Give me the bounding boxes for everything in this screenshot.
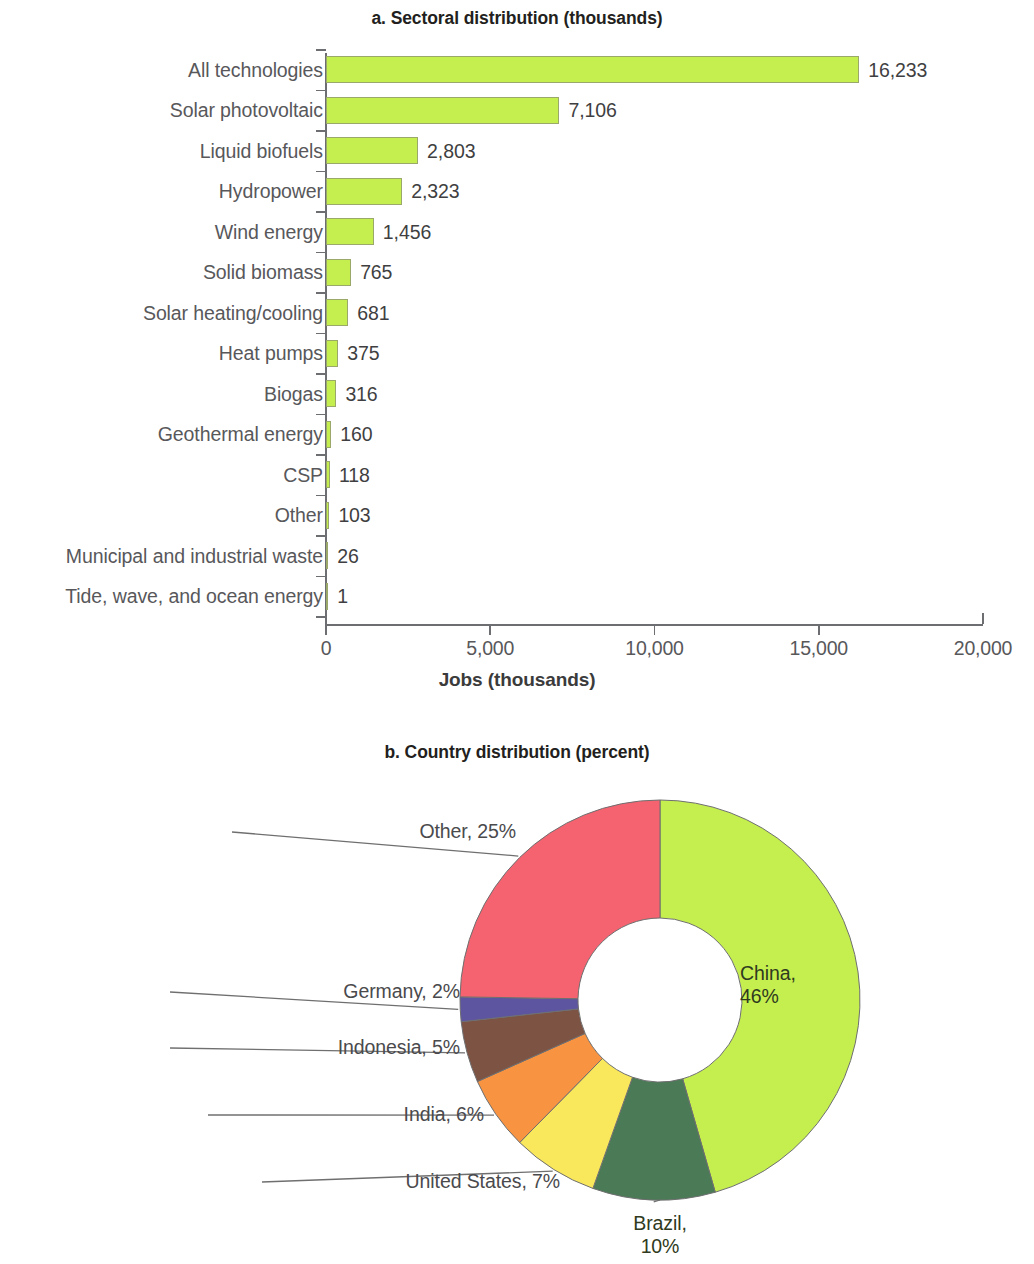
bar [326, 542, 328, 569]
bar-value-label: 2,803 [427, 139, 475, 162]
bar [326, 583, 328, 610]
y-axis-tick [316, 414, 326, 416]
donut-slice-label: Germany, 2% [343, 980, 460, 1003]
bar [326, 137, 418, 164]
donut-slice-label: Indonesia, 5% [338, 1036, 460, 1059]
y-axis-tick [316, 211, 326, 213]
bar [326, 259, 351, 286]
brazil-label-line1: Brazil, [570, 1212, 750, 1235]
china-label-line1: China, [740, 962, 860, 985]
bar-value-label: 1,456 [383, 220, 431, 243]
bar [326, 218, 374, 245]
bar [326, 380, 336, 407]
x-axis-title: Jobs (thousands) [0, 669, 1034, 691]
bar-row: Liquid biofuels2,803 [0, 137, 1034, 164]
y-axis-tick [316, 90, 326, 92]
bar-row: Municipal and industrial waste26 [0, 542, 1034, 569]
bar-row: Solar heating/cooling681 [0, 299, 1034, 326]
y-axis-tick [316, 373, 326, 375]
china-label-line2: 46% [740, 985, 860, 1008]
bar-row: CSP118 [0, 461, 1034, 488]
bar-chart: All technologies16,233Solar photovoltaic… [0, 0, 1034, 700]
bar [326, 502, 329, 529]
y-axis-tick [316, 454, 326, 456]
bar-category-label: Biogas [264, 382, 323, 405]
bar-value-label: 118 [339, 463, 370, 486]
bar-category-label: Geothermal energy [158, 423, 323, 446]
bar-value-label: 16,233 [868, 58, 927, 81]
bar-row: Solar photovoltaic7,106 [0, 97, 1034, 124]
donut-slice-label: India, 6% [404, 1103, 484, 1126]
x-axis-tick-label: 5,000 [466, 637, 514, 660]
bar-category-label: Municipal and industrial waste [66, 544, 323, 567]
donut-slice-label: Other, 25% [419, 820, 516, 843]
bar [326, 178, 402, 205]
bar-category-label: CSP [283, 463, 323, 486]
donut-slice-label: United States, 7% [406, 1170, 560, 1193]
x-axis-tick [818, 624, 820, 635]
bar-row: Tide, wave, and ocean energy1 [0, 583, 1034, 610]
bar-row: Other103 [0, 502, 1034, 529]
brazil-label-line2: 10% [570, 1235, 750, 1258]
x-axis-tick [654, 624, 656, 635]
y-axis-tick [316, 130, 326, 132]
bar-category-label: Hydropower [219, 180, 323, 203]
x-axis-tick [325, 613, 327, 624]
bar-category-label: Heat pumps [219, 342, 323, 365]
bar-row: Hydropower2,323 [0, 178, 1034, 205]
y-axis-tick [316, 576, 326, 578]
y-axis-tick [316, 535, 326, 537]
bar-value-label: 103 [338, 504, 370, 527]
y-axis-tick [316, 333, 326, 335]
x-axis-tick [489, 624, 491, 635]
bar-row: Heat pumps375 [0, 340, 1034, 367]
bar-category-label: Solid biomass [203, 261, 323, 284]
bar-value-label: 1 [337, 585, 348, 608]
x-axis-tick-label: 10,000 [625, 637, 683, 660]
bar-row: All technologies16,233 [0, 56, 1034, 83]
bar-value-label: 160 [340, 423, 372, 446]
bar-category-label: Other [275, 504, 323, 527]
donut-chart: Other, 25%Germany, 2%Indonesia, 5%India,… [0, 700, 1034, 1264]
bar-row: Geothermal energy160 [0, 421, 1034, 448]
bar-value-label: 316 [345, 382, 377, 405]
bar [326, 97, 559, 124]
bar-value-label: 2,323 [411, 180, 459, 203]
bar [326, 340, 338, 367]
y-axis-tick [316, 495, 326, 497]
bar-category-label: Solar photovoltaic [170, 99, 323, 122]
x-axis-tick [982, 613, 984, 624]
y-axis-tick [316, 292, 326, 294]
y-axis-tick [316, 171, 326, 173]
y-axis-tick [316, 252, 326, 254]
bar-value-label: 765 [360, 261, 392, 284]
bar-row: Biogas316 [0, 380, 1034, 407]
bar [326, 56, 859, 83]
bar-category-label: Wind energy [215, 220, 323, 243]
y-axis-tick [316, 49, 326, 51]
bar-value-label: 26 [337, 544, 359, 567]
bar-category-label: Liquid biofuels [200, 139, 323, 162]
donut-slice-label-china: China,46% [740, 962, 860, 1008]
x-axis-tick-label: 0 [321, 637, 332, 660]
bar-category-label: Solar heating/cooling [143, 301, 323, 324]
x-axis-tick-label: 15,000 [790, 637, 848, 660]
bar-value-label: 681 [357, 301, 389, 324]
bar-category-label: Tide, wave, and ocean energy [65, 585, 323, 608]
bar [326, 299, 348, 326]
donut-slice-label-brazil: Brazil,10% [570, 1212, 750, 1258]
x-axis-tick-label: 20,000 [954, 637, 1012, 660]
bar-value-label: 7,106 [568, 99, 616, 122]
x-axis-tick [325, 624, 327, 635]
bar [326, 461, 330, 488]
bar [326, 421, 331, 448]
bar-row: Wind energy1,456 [0, 218, 1034, 245]
bar-row: Solid biomass765 [0, 259, 1034, 286]
bar-value-label: 375 [347, 342, 379, 365]
bar-category-label: All technologies [188, 58, 323, 81]
